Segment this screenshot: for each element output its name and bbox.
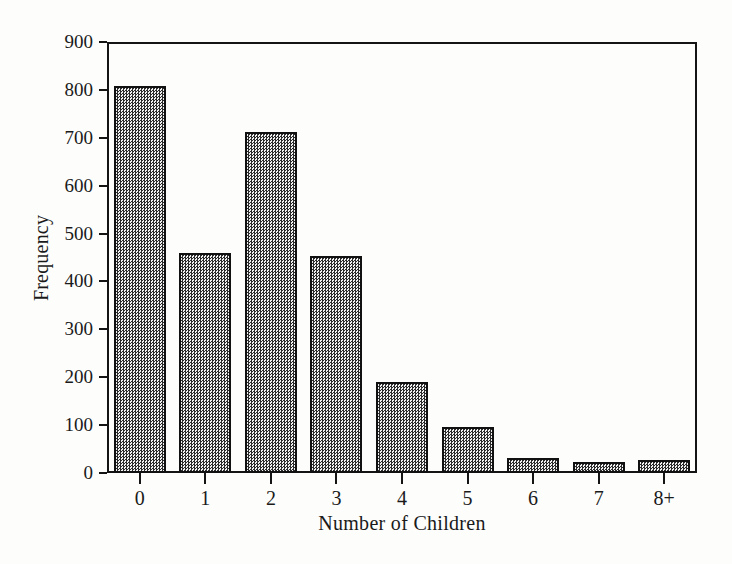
bar-1 [179,253,231,473]
bar-8+ [638,460,690,473]
bar-0 [114,86,166,473]
y-tick-label: 500 [65,220,94,247]
y-tick-label: 800 [65,76,94,103]
bar-7 [573,462,625,473]
x-tick-mark [467,473,469,484]
x-tick-mark [598,473,600,484]
bar-chart: Frequency Number of Children 01002003004… [0,0,732,564]
x-tick-label: 8+ [624,487,704,510]
y-tick-mark [99,41,107,43]
x-tick-mark [663,473,665,484]
bar-2 [245,132,297,473]
y-tick-mark [99,89,107,91]
x-axis-title: Number of Children [107,512,697,535]
bar-3 [310,256,362,473]
bar-4 [376,382,428,473]
y-tick-label: 0 [84,459,94,486]
x-tick-mark [401,473,403,484]
x-tick-mark [335,473,337,484]
y-tick-label: 700 [65,124,94,151]
y-tick-label: 600 [65,172,94,199]
bar-6 [507,458,559,473]
y-tick-mark [99,137,107,139]
x-tick-mark [139,473,141,484]
x-tick-mark [270,473,272,484]
y-tick-label: 400 [65,267,94,294]
x-tick-mark [204,473,206,484]
x-tick-mark [532,473,534,484]
y-tick-label: 300 [65,315,94,342]
y-axis-title: Frequency [26,43,56,473]
y-tick-mark [99,328,107,330]
y-tick-label: 100 [65,411,94,438]
y-tick-label: 900 [65,28,94,55]
y-tick-mark [99,185,107,187]
y-tick-mark [99,424,107,426]
bar-5 [442,427,494,473]
y-tick-mark [99,376,107,378]
y-tick-label: 200 [65,363,94,390]
y-tick-mark [99,280,107,282]
y-tick-mark [99,233,107,235]
y-tick-mark [99,472,107,474]
